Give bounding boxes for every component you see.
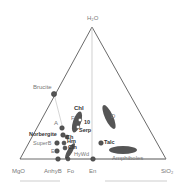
amphiboles-label: Amphiboles: [112, 155, 143, 161]
cln-label: Cln: [68, 145, 77, 151]
anhyb-label: AnhyB: [44, 168, 62, 174]
norbergite-point: [61, 133, 66, 138]
hm-point: [62, 141, 66, 145]
en-label: En: [89, 168, 96, 174]
brucite-label: Brucite: [33, 84, 52, 90]
apex-mgo-label: MgO: [12, 168, 25, 174]
serp-label: Serp: [79, 128, 91, 134]
cln-point: [63, 146, 67, 150]
ternary-plot: [0, 0, 182, 188]
f-label: F: [71, 116, 74, 122]
chl-label: Chl: [74, 105, 84, 111]
apex-h2o-label: H₂O: [87, 15, 98, 21]
superb-point: [55, 141, 60, 146]
e-label: E: [51, 149, 55, 155]
fo-label: Fo: [67, 168, 74, 174]
a-point: [60, 126, 65, 131]
ternary-diagram: H₂O MgO SiO₂ AnhyB Fo En Brucite A Norbe…: [0, 0, 182, 188]
apex-sio2-label: SiO₂: [161, 168, 173, 174]
d-region: [100, 104, 118, 131]
anhyb-point: [56, 157, 61, 162]
brucite-point: [51, 91, 56, 96]
amphiboles-region: [109, 146, 137, 154]
d-label: D: [111, 113, 115, 119]
superb-label: SuperB: [33, 141, 51, 147]
10-point: [78, 118, 82, 122]
hywd-label: HyWd: [74, 152, 89, 158]
talc-label: Talc: [104, 140, 115, 146]
caption-text-faded: [20, 180, 170, 182]
10-label: 10: [84, 120, 90, 126]
a-label: A: [54, 120, 58, 126]
norbergite-label: Norbergite: [29, 132, 57, 138]
talc-point: [99, 141, 104, 146]
e-point: [55, 149, 60, 154]
en-point: [91, 157, 96, 162]
fo-point: [66, 157, 70, 161]
